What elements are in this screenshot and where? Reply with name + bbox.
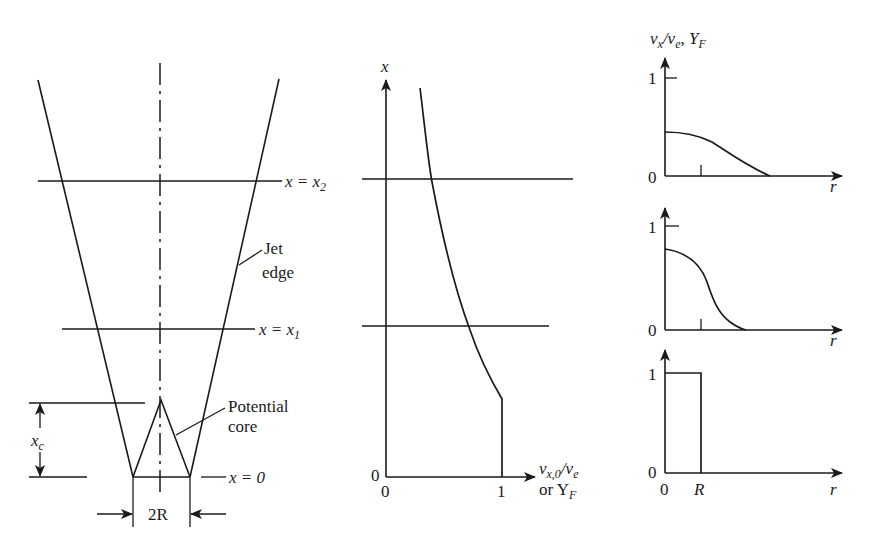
jet-edge-label-2: edge: [262, 263, 294, 282]
plot3-label-zero: 0: [648, 463, 657, 482]
potential-core-label-1: Potential: [228, 397, 289, 416]
station-x2-label: x = x2: [284, 172, 326, 194]
plot1-curve: [665, 132, 770, 176]
potential-core-label-2: core: [228, 417, 257, 436]
plot3-tophat: [665, 373, 701, 473]
potential-core-triangle: [133, 400, 190, 477]
plot3-x-label: r: [830, 480, 837, 499]
nozzle-width-label: 2R: [148, 505, 169, 524]
plot2-x-label: r: [830, 331, 837, 350]
middle-tick-x0: 0: [381, 482, 390, 501]
station-x1-label: x = x1: [258, 320, 300, 342]
plot3-label-one: 1: [648, 365, 657, 384]
jet-edge-leader: [239, 250, 262, 265]
plot2-label-one: 1: [648, 218, 657, 237]
plot1-label-zero: 0: [648, 168, 657, 187]
plot2-curve: [665, 249, 746, 330]
middle-tick-x1: 1: [497, 482, 506, 501]
plot2-label-zero: 0: [648, 321, 657, 340]
plot3-tick-r: R: [693, 480, 705, 499]
plot3-tick-origin: 0: [660, 480, 669, 499]
radial-profiles: vx/ve, YF 1 0 r 1 0 r: [648, 29, 842, 499]
centerline-curve: [420, 88, 502, 477]
plot1-x-label: r: [830, 177, 837, 196]
profile-plot-x1: 1 0 r: [648, 208, 842, 350]
station-x0-label: x = 0: [228, 468, 266, 487]
right-y-axis-label: vx/ve, YF: [650, 29, 706, 51]
middle-x-axis-label-1: vx,0/ve: [539, 459, 579, 481]
jet-diagram: x = x2 x = x1 Jet edge Potential core x …: [0, 0, 874, 553]
middle-origin-y: 0: [371, 466, 380, 485]
plot1-label-one: 1: [648, 69, 657, 88]
profile-plot-x2: 1 0 r: [648, 58, 842, 196]
profile-plot-x0: 1 0 0 R r: [648, 350, 842, 499]
middle-x-axis-label-2: or YF: [539, 480, 577, 502]
centerline-plot: x 0 0 1 vx,0/ve or YF: [362, 57, 579, 502]
jet-schematic: x = x2 x = x1 Jet edge Potential core x …: [29, 63, 326, 527]
core-length-label: xc: [30, 431, 45, 453]
jet-edge-label-1: Jet: [264, 239, 283, 258]
middle-y-axis-label: x: [380, 57, 389, 76]
jet-edge-left: [38, 80, 133, 477]
